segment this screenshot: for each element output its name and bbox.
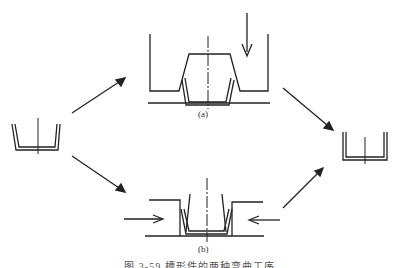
final-part <box>343 132 387 164</box>
label-a: (a) <box>198 109 208 119</box>
arrow-to-a <box>72 78 125 113</box>
initial-part <box>12 118 60 154</box>
figure-a <box>148 13 270 109</box>
arrow-to-b <box>72 156 125 192</box>
arrow-from-a <box>283 88 333 130</box>
arrow-from-b <box>283 168 323 208</box>
figure-caption: 图 3-59 槽形件的两种弯曲工序 <box>0 258 399 268</box>
diagram-canvas <box>0 0 399 268</box>
figure-b <box>124 178 280 242</box>
label-b: (b) <box>198 244 209 254</box>
